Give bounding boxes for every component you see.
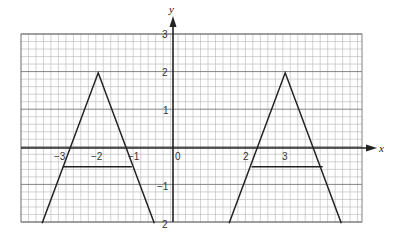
y-tick-label: 2 — [162, 67, 168, 78]
x-tick-label: −1 — [128, 151, 140, 162]
chart-canvas: x y −3 −2 −1 0 2 3 3 2 1 −1 2 — [0, 0, 398, 235]
grid — [21, 34, 362, 222]
y-tick-label: 2 — [162, 219, 168, 230]
x-tick-label: 3 — [282, 151, 288, 162]
x-axis-arrow-icon — [366, 145, 377, 152]
y-axis-arrow-icon — [170, 16, 177, 27]
y-tick-label: 3 — [162, 29, 168, 40]
y-axis-label: y — [168, 3, 174, 15]
x-tick-label: 2 — [243, 151, 249, 162]
x-tick-label: −2 — [91, 151, 103, 162]
x-axis-label: x — [378, 142, 384, 154]
y-tick-label: 1 — [163, 105, 169, 116]
y-tick-label: −1 — [157, 181, 169, 192]
origin-label: 0 — [175, 151, 181, 162]
x-tick-label: −3 — [54, 151, 66, 162]
